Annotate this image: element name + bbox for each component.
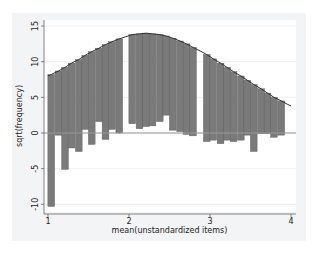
rootogram-bar xyxy=(68,63,75,148)
rootogram-bar xyxy=(278,101,285,135)
rootogram-bar xyxy=(210,59,217,140)
rootogram-bar xyxy=(217,63,224,144)
y-tick-label: -10 xyxy=(31,198,40,211)
rootogram-bar xyxy=(177,41,184,132)
rootogram-bar xyxy=(169,38,176,130)
rootogram-bar xyxy=(237,76,244,140)
rootogram-bar xyxy=(264,93,271,134)
rootogram-bar xyxy=(109,42,116,130)
rootogram-bar xyxy=(230,72,237,142)
rootogram-bar xyxy=(116,39,123,133)
rootogram-bar xyxy=(156,35,163,122)
rootogram-bar xyxy=(55,71,62,135)
x-axis-title: mean(unstandardized items) xyxy=(112,226,228,235)
rootogram-bar xyxy=(224,67,231,140)
rootogram-bar xyxy=(136,34,143,129)
rootogram-bar xyxy=(129,35,136,124)
x-tick-label: 3 xyxy=(207,217,212,226)
y-tick-label: -5 xyxy=(31,165,40,173)
y-tick-label: 15 xyxy=(31,21,40,31)
rootogram-bar xyxy=(82,55,89,129)
y-tick-label: 10 xyxy=(31,57,40,67)
y-tick-label: 5 xyxy=(31,95,40,100)
rootogram-bar xyxy=(244,80,251,135)
x-tick-label: 1 xyxy=(45,217,50,226)
y-tick-label: 0 xyxy=(31,130,40,135)
rootogram-bar xyxy=(250,85,257,152)
rootogram-bar xyxy=(203,55,210,142)
rootogram-bar xyxy=(62,67,69,169)
rootogram-bar xyxy=(48,75,55,207)
rootogram-bar xyxy=(271,97,278,137)
y-axis-title: sqrt(frequency) xyxy=(15,85,24,147)
rootogram-bar xyxy=(258,89,265,134)
rootogram-bar xyxy=(88,52,95,145)
rootogram-bar xyxy=(75,60,82,152)
rootogram-bar xyxy=(102,45,109,140)
rootogram-bar xyxy=(149,34,156,126)
rootogram-bar xyxy=(163,36,170,115)
rootogram-bar xyxy=(96,48,103,121)
rootogram-chart: -10-50510151234mean(unstandardized items… xyxy=(0,0,316,254)
rootogram-bar xyxy=(190,47,197,135)
x-tick-label: 4 xyxy=(288,217,293,226)
rootogram-bar xyxy=(183,44,190,135)
x-tick-label: 2 xyxy=(126,217,131,226)
rootogram-bar xyxy=(143,33,150,126)
